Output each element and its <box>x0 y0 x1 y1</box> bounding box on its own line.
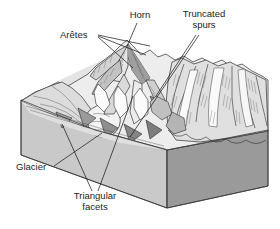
label-triangular-facets-line-2: facets <box>82 201 108 212</box>
label-aretes: Arêtes <box>60 29 88 40</box>
label-aretes-line-1: Arêtes <box>60 29 88 40</box>
label-horn: Horn <box>130 9 151 20</box>
label-truncated-spurs-line-1: Truncated <box>183 8 225 19</box>
label-glacier-line-1: Glacier <box>16 161 46 172</box>
label-triangular-facets-line-1: Triangular <box>74 190 116 201</box>
figure-root: ArêtesHornTruncatedspursGlacierTriangula… <box>0 0 280 229</box>
label-horn-line-1: Horn <box>130 9 151 20</box>
leader-line-horn-1 <box>128 23 137 44</box>
label-glacier: Glacier <box>16 161 46 172</box>
label-triangular-facets: Triangularfacets <box>74 190 116 212</box>
glacial-landform-diagram: ArêtesHornTruncatedspursGlacierTriangula… <box>0 0 280 229</box>
label-truncated-spurs: Truncatedspurs <box>183 8 225 30</box>
label-truncated-spurs-line-2: spurs <box>192 19 215 30</box>
